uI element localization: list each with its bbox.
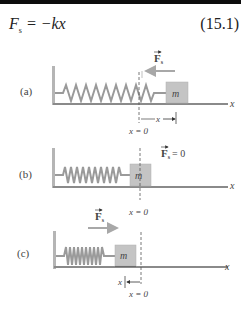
spring-stretched <box>55 85 166 101</box>
x-axis-label: x <box>224 261 230 272</box>
force-label: Fs <box>95 210 105 223</box>
wall <box>52 66 55 105</box>
wall <box>53 231 56 269</box>
panel-b-label: (b) <box>19 168 32 181</box>
origin-label: x = 0 <box>128 126 149 136</box>
x-axis-label: x <box>229 98 235 109</box>
origin-label: x = 0 <box>128 289 149 299</box>
force-label: Fs= 0 <box>161 147 185 160</box>
mass-label: m <box>172 88 179 99</box>
panel-b: (b) x m Fs= 0 x = 0 <box>19 147 235 217</box>
origin-label: x = 0 <box>128 207 149 217</box>
x-axis-label: x <box>229 180 235 191</box>
panel-c: (c) x m Fs x x = 0 <box>17 210 230 299</box>
mass-label: m <box>135 170 142 181</box>
force-label: Fs <box>154 52 164 65</box>
displacement-label: x <box>117 277 122 287</box>
panel-a: (a) x m Fs x x = 0 <box>20 52 235 136</box>
displacement-label: x <box>155 114 160 124</box>
panel-c-label: (c) <box>17 247 30 260</box>
floor <box>53 103 228 105</box>
panel-a-label: (a) <box>20 85 33 98</box>
spring-mass-diagram: (a) x m Fs x x = 0 (b) x m Fs= 0 <box>0 0 251 311</box>
mass-label: m <box>120 250 127 261</box>
wall <box>52 148 55 188</box>
spring-compressed <box>56 247 115 265</box>
spring-natural <box>55 167 130 183</box>
floor <box>53 186 228 188</box>
